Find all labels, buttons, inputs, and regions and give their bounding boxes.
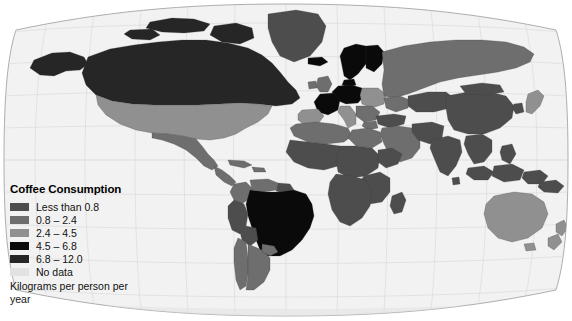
legend-title: Coffee Consumption	[10, 183, 148, 196]
region-tasmania	[524, 243, 536, 251]
legend-swatch-2-4-to-4-5	[10, 229, 29, 237]
legend-label: No data	[36, 266, 73, 278]
legend-label: Less than 0.8	[36, 201, 99, 213]
legend-swatch-no-data	[10, 268, 29, 276]
legend-item: 6.8 – 12.0	[8, 252, 148, 265]
legend-item: Less than 0.8	[8, 200, 148, 213]
legend-label: 0.8 – 2.4	[36, 214, 77, 226]
choropleth-map-figure: Coffee Consumption Less than 0.8 0.8 – 2…	[0, 0, 572, 321]
region-ireland	[308, 81, 317, 89]
legend-item: 2.4 – 4.5	[8, 226, 148, 239]
map-legend: Coffee Consumption Less than 0.8 0.8 – 2…	[8, 183, 148, 305]
legend-swatch-less-than-0-8	[10, 203, 29, 211]
region-sri-lanka	[452, 177, 460, 185]
legend-swatch-4-5-to-6-8	[10, 242, 29, 250]
legend-units-caption: Kilograms per person per year	[10, 280, 142, 305]
legend-item: 4.5 – 6.8	[8, 239, 148, 252]
legend-label: 6.8 – 12.0	[36, 253, 83, 265]
legend-item: No data	[8, 265, 148, 278]
legend-label: 4.5 – 6.8	[36, 240, 77, 252]
legend-swatch-0-8-to-2-4	[10, 216, 29, 224]
legend-item: 0.8 – 2.4	[8, 213, 148, 226]
legend-swatch-6-8-to-12-0	[10, 255, 29, 263]
legend-label: 2.4 – 4.5	[36, 227, 77, 239]
